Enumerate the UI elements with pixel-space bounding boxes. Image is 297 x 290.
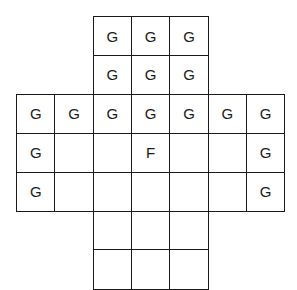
grid-cell-g: G bbox=[208, 94, 248, 134]
grid-cell-empty bbox=[169, 172, 209, 212]
grid-cell-empty bbox=[131, 249, 171, 289]
grid-cell-g: G bbox=[16, 133, 56, 173]
grid-cell-g: G bbox=[16, 172, 56, 212]
grid-cell-g: G bbox=[93, 94, 133, 134]
grid-cell-g: G bbox=[131, 16, 171, 56]
grid-cell-empty bbox=[169, 249, 209, 289]
grid-cell-g: G bbox=[131, 55, 171, 95]
grid-cell-empty bbox=[208, 172, 248, 212]
grid-cell-empty bbox=[93, 172, 133, 212]
grid-cell-empty bbox=[54, 172, 94, 212]
grid-cell-g: G bbox=[169, 16, 209, 56]
grid-cell-empty bbox=[169, 133, 209, 173]
grid-cell-empty bbox=[208, 133, 248, 173]
grid-cell-g: G bbox=[169, 55, 209, 95]
grid-cell-g: G bbox=[246, 94, 286, 134]
grid-cell-empty bbox=[93, 133, 133, 173]
grid-cell-g: G bbox=[169, 94, 209, 134]
grid-cell-empty bbox=[93, 211, 133, 251]
grid-cell-empty bbox=[93, 249, 133, 289]
grid-cell-g: G bbox=[93, 16, 133, 56]
grid-cell-g: G bbox=[131, 94, 171, 134]
grid-cell-empty bbox=[169, 211, 209, 251]
grid-cell-g: G bbox=[246, 133, 286, 173]
grid-cell-g: G bbox=[93, 55, 133, 95]
grid-cell-empty bbox=[131, 211, 171, 251]
grid-cell-g: G bbox=[246, 172, 286, 212]
grid-cell-g: G bbox=[54, 94, 94, 134]
grid-cell-f: F bbox=[131, 133, 171, 173]
grid-cell-empty bbox=[131, 172, 171, 212]
grid-cell-g: G bbox=[16, 94, 56, 134]
grid-cell-empty bbox=[54, 133, 94, 173]
